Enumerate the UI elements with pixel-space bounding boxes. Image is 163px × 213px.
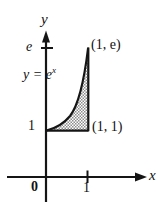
y-axis-label: y xyxy=(41,12,48,27)
y-tick-label-e: e xyxy=(26,40,32,54)
curve-equation-label: y = ex xyxy=(23,68,56,82)
curve-equation-exponent: x xyxy=(52,65,56,75)
figure-canvas xyxy=(0,0,163,213)
x-tick-label-1: 1 xyxy=(83,181,90,195)
point-label-1-e: (1, e) xyxy=(91,38,121,52)
exponential-area-figure: y x e 1 0 1 y = ex (1, e) (1, 1) xyxy=(0,0,163,213)
y-axis-arrowhead xyxy=(42,31,50,43)
point-label-1-1: (1, 1) xyxy=(92,120,122,134)
curve-equation-base: y = e xyxy=(23,67,52,82)
y-tick-label-1: 1 xyxy=(28,119,35,133)
x-axis-label: x xyxy=(149,168,156,183)
origin-label: 0 xyxy=(31,180,38,194)
x-axis-arrowhead xyxy=(135,173,147,182)
